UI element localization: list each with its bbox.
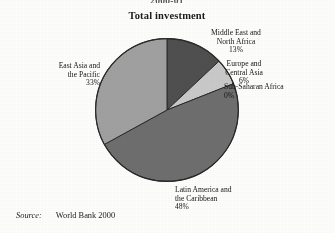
slice-label-east-asia-pacific: East Asia and the Pacific 33%: [12, 62, 100, 88]
chart-title: Total investment: [0, 10, 334, 21]
slice-label-percent: 0%: [224, 92, 332, 101]
figure-page: 2000-01 Total investment Middle East and…: [0, 0, 334, 233]
cropped-caption-fragment: 2000-01: [0, 0, 334, 3]
slice-label-line1: Sub-Saharan Africa: [224, 82, 284, 91]
slice-label-percent: 48%: [175, 203, 295, 212]
slice-label-percent: 33%: [12, 79, 100, 88]
slice-label-middle-east-north-africa: Middle East and North Africa 13%: [188, 29, 284, 55]
slice-label-sub-saharan-africa: Sub-Saharan Africa 0%: [224, 83, 332, 100]
slice-label-percent: 13%: [188, 46, 284, 55]
slice-label-latin-america-caribbean: Latin America and the Caribbean 48%: [175, 186, 295, 212]
source-value: World Bank 2000: [56, 211, 115, 220]
source-note: Source:World Bank 2000: [16, 211, 115, 220]
source-label: Source:: [16, 211, 42, 220]
